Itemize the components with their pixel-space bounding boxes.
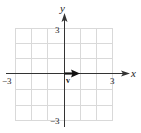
y-min-tick-label: −3 (50, 116, 60, 126)
y-axis-label: y (59, 2, 65, 14)
x-max-tick-label: 3 (110, 76, 115, 86)
x-min-tick-label: −3 (2, 76, 12, 86)
x-axis-label: x (130, 67, 136, 79)
y-axis (62, 13, 68, 127)
coordinate-plane: y x 3 −3 −3 3 v (0, 0, 141, 133)
vector-label: v (66, 76, 70, 85)
y-max-tick-label: 3 (55, 25, 60, 35)
